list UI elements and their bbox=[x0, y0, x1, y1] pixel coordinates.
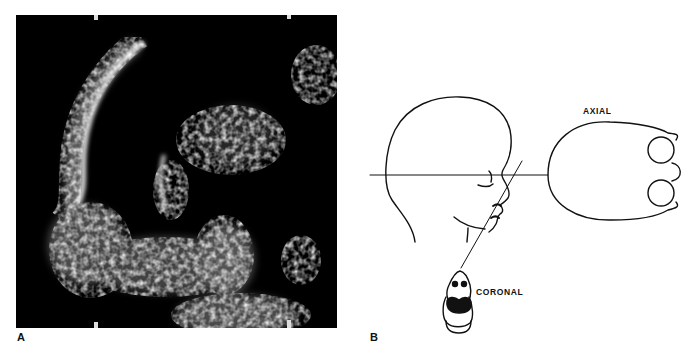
head-outline bbox=[386, 97, 511, 242]
axial-label: AXIAL bbox=[583, 106, 612, 116]
coronal-label: CORONAL bbox=[476, 287, 523, 297]
imaging-planes-diagram: AXIAL CORONAL bbox=[0, 0, 693, 355]
panel-b-label: B bbox=[370, 331, 378, 343]
